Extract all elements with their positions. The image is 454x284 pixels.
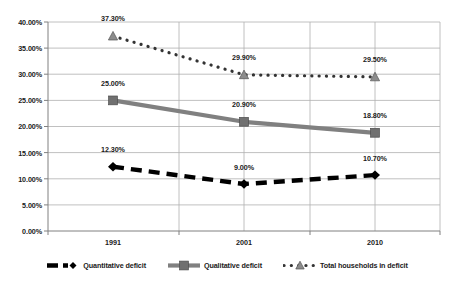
series-qualitative-marker-1991 bbox=[109, 96, 118, 105]
y-tick-label-35: 35.00% bbox=[0, 44, 42, 53]
legend-swatch-total-dotted-line bbox=[283, 260, 317, 271]
series-qualitative-marker-2010 bbox=[371, 128, 380, 137]
x-tick-label-1991: 1991 bbox=[83, 238, 143, 247]
data-label-quantitative-1991: 12.30% bbox=[85, 145, 141, 154]
data-label-total-2010: 29.50% bbox=[347, 55, 403, 64]
legend-item-total-households-in-deficit[interactable]: Total households in deficit bbox=[283, 260, 408, 271]
y-tick-label-30: 30.00% bbox=[0, 70, 42, 79]
data-label-quantitative-2010: 10.70% bbox=[347, 154, 403, 163]
y-axis-ticks bbox=[44, 22, 48, 231]
legend-label-qualitative-deficit: Qualitative deficit bbox=[204, 261, 262, 270]
chart-legend: Quantitative deficit Qualitative deficit… bbox=[0, 255, 454, 275]
y-tick-label-5: 5.00% bbox=[0, 201, 42, 210]
legend-swatch-quantitative-dashed-line bbox=[46, 260, 80, 271]
y-tick-label-15: 15.00% bbox=[0, 149, 42, 158]
y-tick-label-0: 0.00% bbox=[0, 227, 42, 236]
x-axis-ticks bbox=[48, 231, 440, 235]
legend-swatch-qualitative-solid-line bbox=[167, 260, 201, 271]
series-qualitative-marker-2001 bbox=[240, 117, 249, 126]
data-label-quantitative-2001: 9.00% bbox=[216, 163, 272, 172]
x-tick-label-2001: 2001 bbox=[214, 238, 274, 247]
legend-item-quantitative-deficit[interactable]: Quantitative deficit bbox=[46, 260, 146, 271]
legend-label-total-households-in-deficit: Total households in deficit bbox=[320, 261, 408, 270]
data-label-qualitative-2010: 18.80% bbox=[347, 111, 403, 120]
data-label-total-1991: 37.30% bbox=[85, 14, 141, 23]
x-tick-label-2010: 2010 bbox=[345, 238, 405, 247]
y-tick-label-20: 20.00% bbox=[0, 122, 42, 131]
chart-container: 40.00% 35.00% 30.00% 25.00% 20.00% 15.00… bbox=[0, 0, 454, 284]
data-label-total-2001: 29.90% bbox=[216, 53, 272, 62]
y-tick-label-40: 40.00% bbox=[0, 18, 42, 27]
legend-label-quantitative-deficit: Quantitative deficit bbox=[83, 261, 146, 270]
data-label-qualitative-2001: 20.90% bbox=[216, 100, 272, 109]
y-tick-label-25: 25.00% bbox=[0, 96, 42, 105]
data-label-qualitative-1991: 25.00% bbox=[85, 79, 141, 88]
legend-item-qualitative-deficit[interactable]: Qualitative deficit bbox=[167, 260, 262, 271]
y-tick-label-10: 10.00% bbox=[0, 175, 42, 184]
